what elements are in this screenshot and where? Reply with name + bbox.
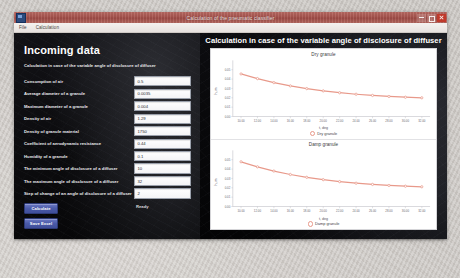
field-input-2[interactable]: 0.004 (134, 101, 191, 111)
svg-text:32.00: 32.00 (418, 209, 425, 213)
svg-text:14.00: 14.00 (270, 118, 277, 122)
action-bar: Calculate Save Excel Ready (24, 203, 190, 229)
svg-text:18.00: 18.00 (303, 118, 310, 122)
menu-bar: File Calculation (14, 23, 447, 33)
field-row: Maximum diameter of a granule0.004 (24, 101, 190, 112)
results-panel: Calculation in case of the variable angl… (200, 33, 447, 239)
svg-text:0.03: 0.03 (225, 86, 231, 90)
field-label: The minimum angle of disclosure of a dif… (24, 166, 134, 171)
chart-damp-granule: Damp granule 0.000.010.020.030.040.0510.… (211, 139, 436, 230)
field-row: The minimum angle of disclosure of a dif… (24, 163, 190, 174)
field-label: The maximum angle of disclosure of a dif… (24, 179, 134, 184)
field-row: Step of change of an angle of disclosure… (24, 188, 190, 199)
field-row: Average diameter of a granule0.0035 (24, 88, 190, 99)
svg-text:0.03: 0.03 (225, 176, 231, 180)
svg-text:20.00: 20.00 (320, 118, 327, 122)
status-label: Ready (136, 204, 149, 209)
svg-text:22.00: 22.00 (336, 209, 343, 213)
incoming-data-panel: Incoming data Calculation in case of the… (14, 33, 200, 239)
field-input-5[interactable]: 0.44 (134, 139, 191, 149)
chart-dry-granule: Dry granule 0.000.010.020.030.040.0510.0… (211, 49, 436, 139)
field-input-7[interactable]: 10 (134, 163, 191, 173)
svg-text:0.02: 0.02 (225, 95, 231, 99)
field-input-6[interactable]: 0.1 (134, 151, 191, 161)
svg-text:26.00: 26.00 (369, 118, 376, 122)
field-label: Average diameter of a granule (24, 91, 134, 96)
window-controls (417, 12, 446, 23)
svg-text:20.00: 20.00 (320, 209, 327, 213)
svg-text:0.01: 0.01 (225, 105, 231, 109)
svg-text:0.05: 0.05 (225, 67, 231, 71)
field-label: Coefficient of aerodynamic resistance (24, 141, 134, 146)
client-area: Incoming data Calculation in case of the… (14, 33, 447, 239)
svg-text:16.00: 16.00 (287, 118, 294, 122)
svg-text:18.00: 18.00 (303, 209, 310, 213)
legend-dry: Dry granule (211, 131, 436, 139)
field-label: Density of air (24, 116, 134, 121)
field-label: Humidity of a granule (24, 154, 134, 159)
field-input-0[interactable]: 0.5 (134, 76, 191, 86)
field-label: Density of granule material (24, 129, 134, 134)
panel-subtitle: Calculation in case of the variable angl… (24, 63, 190, 68)
svg-text:0.00: 0.00 (225, 204, 231, 208)
plot-area-dry[interactable]: 0.000.010.020.030.040.0510.0012.0014.001… (211, 57, 436, 127)
plot-area-damp[interactable]: 0.000.010.020.030.040.0510.0012.0014.001… (211, 147, 436, 217)
svg-text:30.00: 30.00 (402, 118, 409, 122)
field-row: The maximum angle of disclosure of a dif… (24, 176, 190, 187)
window-title: Calculation of the pneumatic classifier (14, 15, 447, 21)
field-label: Step of change of an angle of disclosure… (24, 191, 134, 196)
window-titlebar[interactable]: Calculation of the pneumatic classifier (14, 12, 447, 23)
field-input-9[interactable]: 2 (134, 188, 191, 198)
field-row: Coefficient of aerodynamic resistance0.4… (24, 138, 190, 149)
svg-text:0.00: 0.00 (225, 114, 231, 118)
svg-text:12.00: 12.00 (254, 118, 261, 122)
svg-text:24.00: 24.00 (352, 118, 359, 122)
legend-marker-icon (310, 131, 315, 136)
svg-text:12.00: 12.00 (254, 209, 261, 213)
save-excel-button[interactable]: Save Excel (24, 218, 58, 229)
chart-title-dry: Dry granule (211, 49, 436, 57)
field-row: Humidity of a granule0.1 (24, 151, 190, 162)
maximize-button[interactable] (427, 14, 436, 22)
svg-text:30.00: 30.00 (402, 209, 409, 213)
y-axis-label-dry: h, m (214, 88, 218, 95)
field-input-1[interactable]: 0.0035 (134, 89, 191, 99)
field-label: Consumption of air (24, 79, 134, 84)
field-row: Density of granule material1750 (24, 126, 190, 137)
minimize-button[interactable] (417, 14, 426, 22)
close-button[interactable] (437, 14, 446, 22)
chart-title-damp: Damp granule (211, 140, 436, 148)
legend-damp: Damp granule (211, 221, 436, 229)
charts-container: Dry granule 0.000.010.020.030.040.0510.0… (210, 48, 437, 230)
svg-text:14.00: 14.00 (270, 209, 277, 213)
svg-text:28.00: 28.00 (385, 209, 392, 213)
field-row: Consumption of air0.5 (24, 76, 190, 87)
field-input-3[interactable]: 1.29 (134, 114, 191, 124)
svg-text:16.00: 16.00 (287, 209, 294, 213)
y-axis-label-damp: h, m (214, 178, 218, 185)
legend-label-damp: Damp granule (315, 221, 339, 226)
svg-text:0.04: 0.04 (225, 167, 231, 171)
input-fields-list: Consumption of air0.5Average diameter of… (24, 76, 190, 199)
menu-item-calculation[interactable]: Calculation (36, 25, 59, 30)
svg-text:26.00: 26.00 (369, 209, 376, 213)
menu-item-file[interactable]: File (19, 25, 27, 30)
page-title: Incoming data (24, 44, 190, 56)
field-row: Density of air1.29 (24, 113, 190, 124)
svg-text:0.05: 0.05 (225, 158, 231, 162)
svg-text:10.00: 10.00 (237, 209, 244, 213)
legend-label-dry: Dry granule (317, 131, 337, 136)
svg-text:0.04: 0.04 (225, 77, 231, 81)
field-input-8[interactable]: 32 (134, 176, 191, 186)
field-label: Maximum diameter of a granule (24, 104, 134, 109)
svg-text:24.00: 24.00 (352, 209, 359, 213)
svg-text:10.00: 10.00 (237, 118, 244, 122)
window-shadow (14, 239, 447, 241)
calculate-button[interactable]: Calculate (24, 203, 58, 214)
svg-text:0.01: 0.01 (225, 195, 231, 199)
svg-text:22.00: 22.00 (336, 118, 343, 122)
application-window: Calculation of the pneumatic classifier … (14, 12, 447, 239)
field-input-4[interactable]: 1750 (134, 126, 191, 136)
svg-text:32.00: 32.00 (418, 118, 425, 122)
button-column: Calculate Save Excel (24, 203, 58, 229)
